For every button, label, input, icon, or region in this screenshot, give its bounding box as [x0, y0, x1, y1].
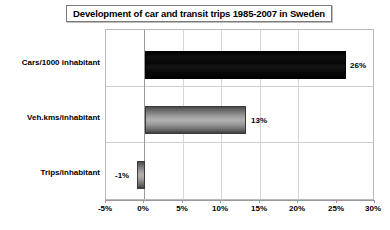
bar-trips-per-inhabitant[interactable]	[137, 161, 145, 189]
category-label-trips: Trips/inhabitant	[0, 169, 100, 177]
x-tick-label-30: 30%	[365, 205, 381, 213]
x-tick-mark-30	[374, 200, 375, 203]
bar-value-label-trips: -1%	[115, 172, 129, 180]
x-tick-mark-20	[297, 200, 298, 203]
category-label-vehkms: Veh.kms/inhabitant	[0, 114, 100, 122]
x-tick-label-15: 15%	[251, 205, 267, 213]
x-tick-mark-5	[182, 200, 183, 203]
x-tick-label-10: 10%	[212, 205, 228, 213]
chart-title: Development of car and transit trips 198…	[73, 9, 325, 19]
x-tick-mark-neg5	[105, 200, 106, 203]
x-tick-label-5: 5%	[176, 205, 188, 213]
x-tick-label-25: 25%	[328, 205, 344, 213]
bar-cars-per-1000-inhabitant[interactable]	[145, 51, 346, 79]
x-tick-mark-15	[259, 200, 260, 203]
x-tick-mark-10	[220, 200, 221, 203]
gridline-horizontal-2	[106, 142, 373, 143]
x-tick-label-0: 0%	[137, 205, 149, 213]
bar-veh-kms-per-inhabitant[interactable]	[145, 106, 246, 134]
category-label-cars: Cars/1000 inhabitant	[0, 59, 100, 67]
gridline-horizontal-1	[106, 86, 373, 87]
x-axis-line	[105, 200, 374, 201]
bar-value-label-cars: 26%	[350, 62, 366, 70]
x-tick-mark-0	[143, 200, 144, 203]
x-tick-label-20: 20%	[289, 205, 305, 213]
x-tick-mark-25	[336, 200, 337, 203]
bar-value-label-vehkms: 13%	[251, 117, 267, 125]
plot-area: 26% 13% -1%	[105, 29, 374, 200]
x-tick-label-neg5: -5%	[98, 205, 112, 213]
chart-title-box: Development of car and transit trips 198…	[66, 5, 332, 22]
